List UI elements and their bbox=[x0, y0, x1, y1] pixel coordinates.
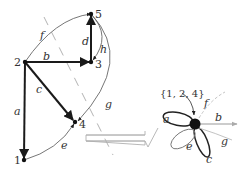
node-3 bbox=[89, 60, 93, 64]
edge-label-e: e bbox=[61, 139, 68, 152]
loop-label-e: e bbox=[186, 140, 193, 153]
contracted-node bbox=[190, 119, 201, 130]
right-graph: {1, 2, 4} a c e b f g bbox=[160, 88, 237, 166]
edge-a bbox=[24, 62, 25, 158]
edge-label-h: h bbox=[100, 43, 107, 56]
node-label-5: 5 bbox=[95, 8, 102, 21]
node-label-1: 1 bbox=[14, 154, 21, 167]
edge-label-g: g bbox=[105, 98, 112, 111]
edge-c bbox=[25, 62, 73, 120]
left-graph: 1 2 3 4 5 a b c d e f g h bbox=[14, 8, 113, 167]
transition-arrow bbox=[86, 128, 158, 147]
edge-label-f-out: f bbox=[203, 97, 210, 110]
node-5 bbox=[89, 12, 93, 16]
graph-contraction-diagram: 1 2 3 4 5 a b c d e f g h {1, 2, 4} bbox=[0, 0, 249, 174]
contracted-node-label: {1, 2, 4} bbox=[160, 88, 205, 99]
node-label-2: 2 bbox=[14, 56, 21, 69]
node-label-3: 3 bbox=[95, 58, 102, 71]
node-1 bbox=[22, 158, 26, 162]
edge-label-c: c bbox=[36, 83, 42, 96]
edge-label-g-out: g bbox=[221, 135, 228, 148]
edge-label-b-out: b bbox=[215, 111, 222, 124]
edge-label-b: b bbox=[43, 50, 50, 63]
edge-label-d: d bbox=[82, 35, 89, 48]
edge-label-a: a bbox=[14, 105, 21, 118]
node-2 bbox=[23, 60, 27, 64]
loop-label-c: c bbox=[206, 153, 212, 166]
node-4 bbox=[73, 120, 77, 124]
node-label-4: 4 bbox=[79, 118, 86, 131]
loop-label-a: a bbox=[163, 113, 170, 126]
edge-label-f: f bbox=[39, 29, 46, 42]
